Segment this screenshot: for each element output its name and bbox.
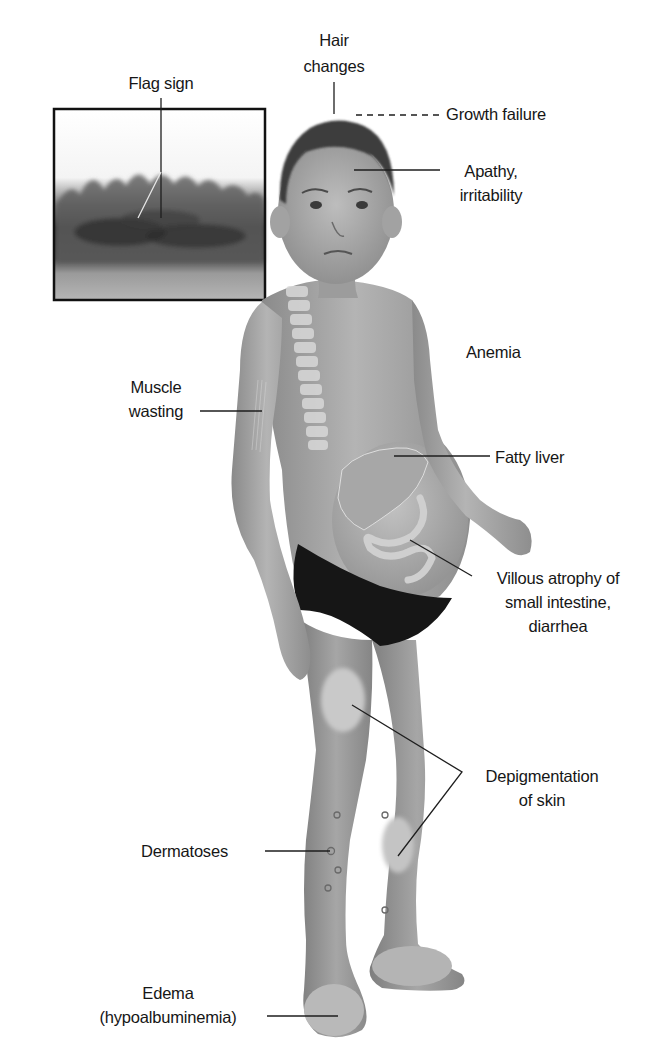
label-line: Muscle xyxy=(114,375,198,399)
depigmented-patch-shin xyxy=(382,817,414,873)
hair-band-texture xyxy=(56,174,264,262)
label-line: Hair xyxy=(280,28,388,52)
label-flag-sign: Flag sign xyxy=(100,71,222,95)
label-dermatoses: Dermatoses xyxy=(141,839,228,863)
label-apathy-irritability: Apathy, irritability xyxy=(436,159,546,207)
label-line: wasting xyxy=(114,399,198,423)
flag-sign-inset xyxy=(54,109,265,300)
ear-left xyxy=(270,206,290,238)
label-line: Anemia xyxy=(466,340,521,364)
label-line: diarrhea xyxy=(474,614,642,638)
label-line: Apathy, xyxy=(436,159,546,183)
label-line: Dermatoses xyxy=(141,839,228,863)
label-edema: Edema (hypoalbuminemia) xyxy=(72,981,264,1029)
label-depigmentation-of-skin: Depigmentation of skin xyxy=(464,764,620,812)
label-villous-atrophy: Villous atrophy of small intestine, diar… xyxy=(474,566,642,638)
label-flag-sign-text: Flag sign xyxy=(100,71,222,95)
label-muscle-wasting: Muscle wasting xyxy=(114,375,198,423)
label-line: Growth failure xyxy=(446,102,546,126)
label-fatty-liver: Fatty liver xyxy=(495,445,564,469)
kwashiorkor-illustration xyxy=(0,0,668,1061)
label-line: irritability xyxy=(436,183,546,207)
label-line: Depigmentation xyxy=(464,764,620,788)
label-line: changes xyxy=(280,54,388,78)
label-line: of skin xyxy=(464,788,620,812)
label-line: (hypoalbuminemia) xyxy=(72,1005,264,1029)
edematous-foot-right xyxy=(372,946,452,986)
label-line: Edema xyxy=(72,981,264,1005)
label-line: Fatty liver xyxy=(495,445,564,469)
label-anemia: Anemia xyxy=(466,340,521,364)
label-line: Villous atrophy of xyxy=(474,566,642,590)
depigmented-patch-thigh xyxy=(321,668,365,732)
label-line: small intestine, xyxy=(474,590,642,614)
right-leg xyxy=(370,640,465,991)
ear-right xyxy=(382,206,402,238)
label-hair-changes: Hair changes xyxy=(280,28,388,78)
label-growth-failure: Growth failure xyxy=(446,102,546,126)
edematous-foot-left xyxy=(304,984,364,1036)
